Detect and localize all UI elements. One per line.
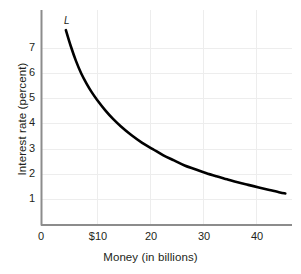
x-axis-title: Money (in billions) (0, 251, 301, 263)
x-tick-label-40: 40 (240, 231, 274, 242)
money-demand-curve (66, 30, 285, 193)
chart-container: 7 6 5 4 3 2 1 0 $10 20 30 40 L Money (in… (0, 0, 301, 274)
x-tick-label-30: 30 (187, 231, 221, 242)
vertical-gridlines (98, 10, 257, 225)
x-tick-label-0: 0 (24, 231, 58, 242)
x-tick-label-20: 20 (134, 231, 168, 242)
x-tick-label-10: $10 (81, 231, 115, 242)
horizontal-gridlines (41, 49, 292, 200)
y-axis-title: Interest rate (percent) (16, 34, 28, 204)
curve-label-L: L (64, 15, 70, 26)
